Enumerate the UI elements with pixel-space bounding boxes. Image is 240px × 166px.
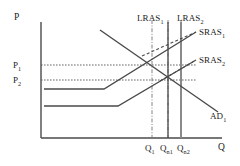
quantity-tick-qn1: Qn1 — [160, 144, 173, 155]
curve-label-sras2-base: SRAS — [199, 55, 222, 65]
curve-label-sras1-sub: 1 — [222, 32, 225, 39]
curve-label-ad1-sub: 1 — [223, 116, 226, 123]
quantity-tick-qn1-base: Q — [160, 143, 167, 153]
ad1-curve — [100, 30, 218, 112]
curve-label-lras2: LRAS2 — [177, 14, 204, 25]
curve-label-ad1-base: AD — [210, 111, 223, 121]
curve-label-sras1-base: SRAS — [199, 27, 222, 37]
y-axis-title: P — [14, 13, 19, 22]
curve-label-sras2-sub: 2 — [222, 60, 225, 67]
quantity-tick-qn1-sub: n1 — [167, 148, 173, 155]
curve-label-lras1-sub: 1 — [160, 18, 163, 25]
price-tick-p1-sub: 1 — [18, 65, 21, 72]
curve-label-ad1: AD1 — [210, 112, 226, 123]
x-axis-title: Q — [218, 143, 225, 152]
quantity-tick-qn2-sub: n2 — [184, 148, 190, 155]
sras1-curve-extension — [142, 32, 196, 56]
quantity-tick-q1: Q1 — [145, 144, 155, 155]
curve-label-sras1: SRAS1 — [199, 28, 225, 39]
chart-canvas — [0, 0, 240, 166]
curve-label-sras2: SRAS2 — [199, 56, 225, 67]
quantity-tick-q1-sub: 1 — [152, 148, 155, 155]
curve-label-lras1-base: LRAS — [137, 13, 160, 23]
sras2-curve — [44, 60, 196, 106]
quantity-tick-q1-base: Q — [145, 143, 152, 153]
curve-label-lras2-base: LRAS — [177, 13, 200, 23]
quantity-tick-qn2-base: Q — [177, 143, 184, 153]
price-tick-p2-sub: 2 — [18, 80, 21, 87]
curve-label-lras2-sub: 2 — [200, 18, 203, 25]
price-tick-p2: P2 — [13, 76, 21, 87]
curve-label-lras1: LRAS1 — [137, 14, 164, 25]
price-tick-p1: P1 — [13, 61, 21, 72]
quantity-tick-qn2: Qn2 — [177, 144, 190, 155]
as-ad-diagram: P Q P1 P2 Q1 Qn1 Qn2 LRAS1 LRAS2 SRAS1 S… — [0, 0, 240, 166]
